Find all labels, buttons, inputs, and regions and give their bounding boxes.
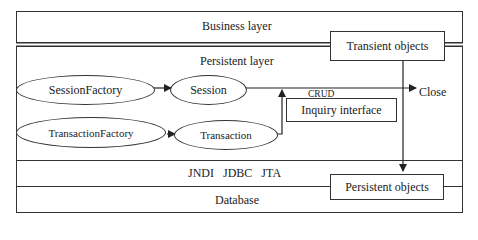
session-factory-label: SessionFactory [49, 83, 122, 98]
persistent-objects-label: Persistent objects [345, 180, 429, 195]
session-factory-node: SessionFactory [16, 75, 155, 105]
inquiry-interface-box: Inquiry interface [286, 98, 397, 122]
persistent-objects-box: Persistent objects [330, 174, 444, 200]
transaction-factory-label: TransactionFactory [48, 127, 133, 139]
transaction-label: Transaction [200, 129, 252, 141]
crud-label: CRUD [308, 90, 334, 100]
transaction-factory-node: TransactionFactory [16, 117, 166, 148]
close-label: Close [419, 86, 446, 98]
session-label: Session [190, 83, 227, 98]
transient-objects-box: Transient objects [330, 31, 445, 61]
inquiry-interface-label: Inquiry interface [301, 103, 381, 118]
session-node: Session [170, 75, 247, 105]
transient-objects-label: Transient objects [347, 39, 429, 54]
transaction-node: Transaction [174, 120, 278, 150]
